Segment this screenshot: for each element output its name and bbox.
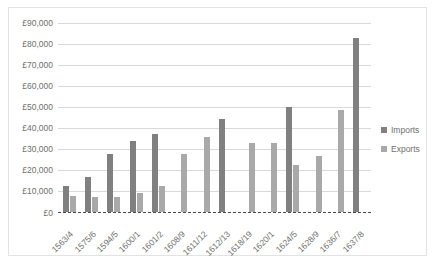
y-axis-tick-label: £20,000 xyxy=(22,165,53,175)
bar-group xyxy=(80,23,102,212)
legend-swatch-icon xyxy=(381,127,387,133)
bar-group xyxy=(215,23,237,212)
x-axis-labels: 1563/41575/61594/51600/11601/21608/91611… xyxy=(58,227,371,265)
bar-group xyxy=(237,23,259,212)
bar-exports xyxy=(137,193,143,212)
bar-imports xyxy=(63,186,69,212)
y-axis-tick-label: £80,000 xyxy=(22,39,53,49)
bar-exports xyxy=(249,143,255,212)
bar-exports xyxy=(70,196,76,212)
legend-item-exports[interactable]: Exports xyxy=(381,144,420,154)
bar-group xyxy=(103,23,125,212)
bar-exports xyxy=(293,165,299,212)
y-axis-tick-label: £40,000 xyxy=(22,123,53,133)
bar-imports xyxy=(107,154,113,212)
bar-group xyxy=(326,23,348,212)
y-axis-tick-label: £0 xyxy=(44,208,53,218)
bar-exports xyxy=(316,156,322,212)
chart-container: £90,000£80,000£70,000£60,000£50,000£40,0… xyxy=(8,7,427,256)
bar-exports xyxy=(92,197,98,212)
bar-group xyxy=(147,23,169,212)
legend-label: Imports xyxy=(391,125,419,135)
bar-imports xyxy=(152,134,158,212)
bar-group xyxy=(125,23,147,212)
y-axis-tick-label: £90,000 xyxy=(22,18,53,28)
bar-exports xyxy=(181,154,187,212)
bar-group xyxy=(282,23,304,212)
plot-area: £90,000£80,000£70,000£60,000£50,000£40,0… xyxy=(58,23,371,212)
bar-exports xyxy=(204,137,210,212)
chart-legend: ImportsExports xyxy=(381,125,420,154)
bar-group xyxy=(259,23,281,212)
bar-exports xyxy=(271,143,277,212)
bar-imports xyxy=(286,107,292,212)
y-axis-tick-label: £60,000 xyxy=(22,81,53,91)
legend-label: Exports xyxy=(391,144,420,154)
x-axis-tick: 1637/8 xyxy=(349,227,371,265)
legend-item-imports[interactable]: Imports xyxy=(381,125,420,135)
y-axis-tick-label: £70,000 xyxy=(22,60,53,70)
bar-exports xyxy=(338,110,344,212)
bar-imports xyxy=(353,38,359,212)
y-axis-tick-label: £10,000 xyxy=(22,186,53,196)
bar-group xyxy=(349,23,371,212)
x-axis-tick-label: 1563/4 xyxy=(50,229,75,254)
legend-swatch-icon xyxy=(381,146,387,152)
bars-group xyxy=(58,23,371,212)
bar-group xyxy=(170,23,192,212)
y-axis-tick-label: £30,000 xyxy=(22,144,53,154)
bar-exports xyxy=(114,197,120,212)
zero-axis-line: £0 xyxy=(58,212,371,213)
bar-exports xyxy=(159,186,165,212)
bar-group xyxy=(304,23,326,212)
bar-group xyxy=(192,23,214,212)
bar-imports xyxy=(219,119,225,212)
bar-imports xyxy=(85,177,91,212)
y-axis-tick-label: £50,000 xyxy=(22,102,53,112)
bar-group xyxy=(58,23,80,212)
bar-imports xyxy=(130,141,136,212)
